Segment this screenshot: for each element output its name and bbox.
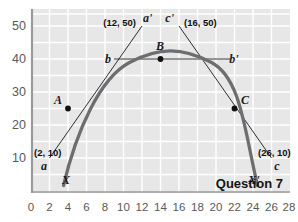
x-tick-label-6: 6 xyxy=(83,201,89,213)
y-tick-label-40: 40 xyxy=(12,52,26,66)
label-c-prime: c' xyxy=(165,11,174,25)
annotation-coord-a: (2, 10) xyxy=(34,147,61,158)
label-c: c xyxy=(274,159,280,173)
label-a-prime: a' xyxy=(143,11,153,25)
y-tick-label-10: 10 xyxy=(12,151,26,165)
label-point-B: B xyxy=(155,39,164,53)
label-a: a xyxy=(41,159,47,173)
x-tick-label-10: 10 xyxy=(117,201,130,213)
x-tick-label-8: 8 xyxy=(102,201,108,213)
x-tick-label-22: 22 xyxy=(228,201,241,213)
label-point-C: C xyxy=(241,93,250,107)
label-X: X xyxy=(61,173,71,187)
graph-svg: 50 40 30 20 10 0 2 4 6 8 10 12 14 16 18 … xyxy=(0,0,298,222)
point-B-marker xyxy=(158,56,164,62)
point-A-marker xyxy=(65,106,71,112)
point-C-marker xyxy=(232,106,238,112)
label-b: b xyxy=(105,52,111,66)
x-tick-label-20: 20 xyxy=(210,201,223,213)
x-tick-label-12: 12 xyxy=(136,201,149,213)
x-tick-label-2: 2 xyxy=(46,201,52,213)
x-tick-label-18: 18 xyxy=(191,201,204,213)
x-tick-label-14: 14 xyxy=(154,201,167,213)
x-tick-label-16: 16 xyxy=(173,201,186,213)
annotation-coord-c: (26, 10) xyxy=(258,147,291,158)
x-tick-label-28: 28 xyxy=(283,201,296,213)
label-point-A: A xyxy=(53,93,62,107)
y-tick-label-20: 20 xyxy=(12,118,26,132)
label-b-prime: b' xyxy=(229,52,239,66)
x-tick-label-4: 4 xyxy=(65,201,72,213)
annotation-coord-c-prime: (16, 50) xyxy=(184,17,217,28)
y-tick-label-50: 50 xyxy=(12,19,26,33)
figure-caption: Question 7 xyxy=(216,176,283,191)
x-tick-label-26: 26 xyxy=(265,201,278,213)
x-tick-label-0: 0 xyxy=(28,201,34,213)
figure-container: 50 40 30 20 10 0 2 4 6 8 10 12 14 16 18 … xyxy=(0,0,298,222)
x-tick-label-24: 24 xyxy=(247,201,260,213)
annotation-coord-a-prime: (12, 50) xyxy=(103,17,136,28)
y-tick-label-30: 30 xyxy=(12,85,26,99)
